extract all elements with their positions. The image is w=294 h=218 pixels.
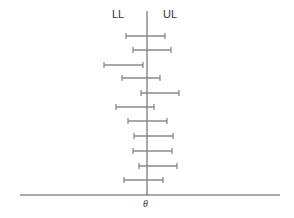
interval-plot xyxy=(0,0,294,218)
theta-label: θ xyxy=(143,199,148,209)
confidence-intervals xyxy=(104,33,179,183)
confidence-interval xyxy=(116,104,154,110)
confidence-interval xyxy=(133,47,171,53)
confidence-interval xyxy=(124,177,163,183)
confidence-interval xyxy=(134,133,173,139)
confidence-interval xyxy=(122,75,160,81)
confidence-interval xyxy=(139,163,177,169)
lower-limit-label: LL xyxy=(112,9,124,20)
confidence-interval xyxy=(133,148,172,154)
upper-limit-label: UL xyxy=(163,9,177,20)
confidence-interval xyxy=(104,62,143,68)
confidence-interval xyxy=(126,33,165,39)
